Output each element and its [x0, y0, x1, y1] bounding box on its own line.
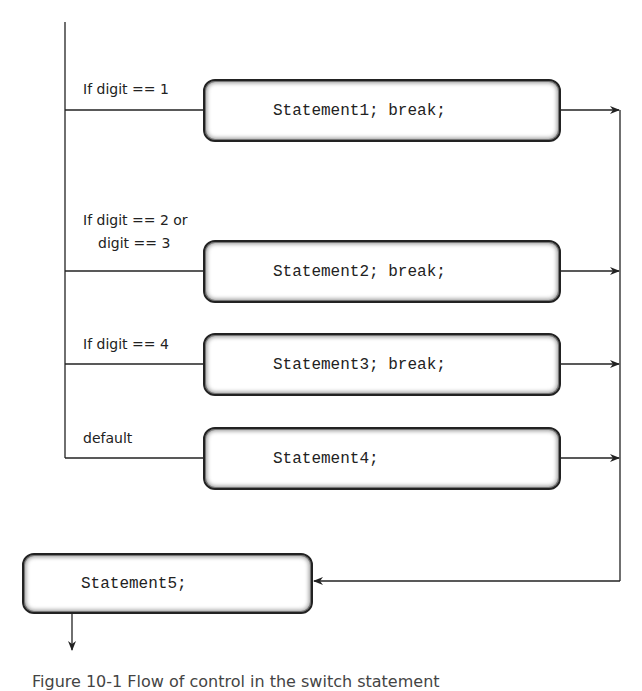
statement2-box: Statement2; break;: [203, 240, 561, 303]
condition-label-2-line1: If digit == 2 or: [83, 209, 188, 232]
figure-caption: Figure 10-1 Flow of control in the switc…: [32, 672, 440, 691]
condition-label-1: If digit == 1: [83, 78, 169, 101]
condition-label-3: If digit == 4: [83, 333, 169, 356]
statement4-text: Statement4;: [273, 450, 379, 468]
statement1-text: Statement1; break;: [273, 102, 446, 120]
condition-label-2-line2: digit == 3: [98, 232, 170, 255]
statement3-box: Statement3; break;: [203, 333, 561, 396]
condition-label-default: default: [83, 427, 132, 450]
statement3-text: Statement3; break;: [273, 356, 446, 374]
statement5-text: Statement5;: [81, 575, 187, 593]
statement4-box: Statement4;: [203, 427, 561, 490]
statement2-text: Statement2; break;: [273, 263, 446, 281]
statement1-box: Statement1; break;: [203, 79, 561, 142]
statement5-box: Statement5;: [22, 553, 313, 614]
